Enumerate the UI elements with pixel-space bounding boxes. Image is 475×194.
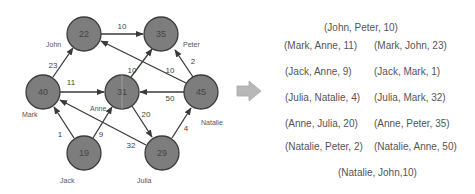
node-john: 22 John [46,17,101,51]
node-value: 31 [117,87,127,97]
node-label: Mark [22,111,38,118]
tuple-item: (Anne, Peter, 35) [374,118,450,129]
node-label: Peter [183,41,200,48]
edge-label-john-peter: 10 [118,22,127,31]
edge-label-natalie-peter: 2 [191,57,196,66]
node-mark: 40 Mark [22,75,60,118]
node-value: 40 [38,87,48,97]
node-label: John [46,41,61,48]
right-arrow-icon [236,80,262,102]
node-label: Jack [60,177,75,184]
edge-label-julia-mark: 32 [127,141,136,150]
node-jack: 19 Jack [60,136,101,184]
node-value: 29 [157,148,167,158]
node-label: Anne [90,105,106,112]
edge-julia-natalie [172,108,191,138]
edge-label-mark-anne: 11 [67,78,76,87]
node-value: 45 [196,87,206,97]
node-label: Julia [137,177,152,184]
node-value: 19 [79,148,89,158]
edge-label-natalie-john: 10 [166,66,175,75]
tuple-item: (Anne, Julia, 20) [285,118,358,129]
edge-label-jack-anne: 9 [99,130,104,139]
tuple-item: (Mark, Anne, 11) [284,40,357,51]
node-label: Natalie [201,119,223,126]
tuple-item: (Natalie, Peter, 2) [285,141,363,152]
edge-label-natalie-anne: 50 [166,94,175,103]
tuple-item: (Julia, Mark, 32) [374,92,446,103]
tuple-item: (John, Peter, 10) [324,22,398,33]
tuple-item: (Jack, Anne, 9) [285,66,352,77]
graph-diagram: 10 23 11 10 10 2 50 20 4 32 1 9 [0,0,232,194]
edge-label-anne-julia: 20 [142,110,151,119]
node-peter: 35 Peter [144,17,200,51]
tuple-item: (Natalie, Anne, 50) [374,141,457,152]
edge-label-julia-natalie: 4 [184,124,189,133]
tuple-item: (Jack, Mark, 1) [374,66,440,77]
node-natalie: 45 Natalie [184,75,223,126]
node-anne: 31 Anne [90,75,139,112]
tuple-item: (Mark, John, 23) [374,40,447,51]
tuple-item: (Natalie, John,10) [338,167,417,178]
tuple-item: (Julia, Natalie, 4) [285,92,360,103]
node-value: 35 [156,29,166,39]
edge-label-anne-peter: 10 [128,66,137,75]
edge-label-mark-john: 23 [49,61,58,70]
node-value: 22 [79,29,89,39]
edge-label-jack-mark: 1 [58,130,63,139]
